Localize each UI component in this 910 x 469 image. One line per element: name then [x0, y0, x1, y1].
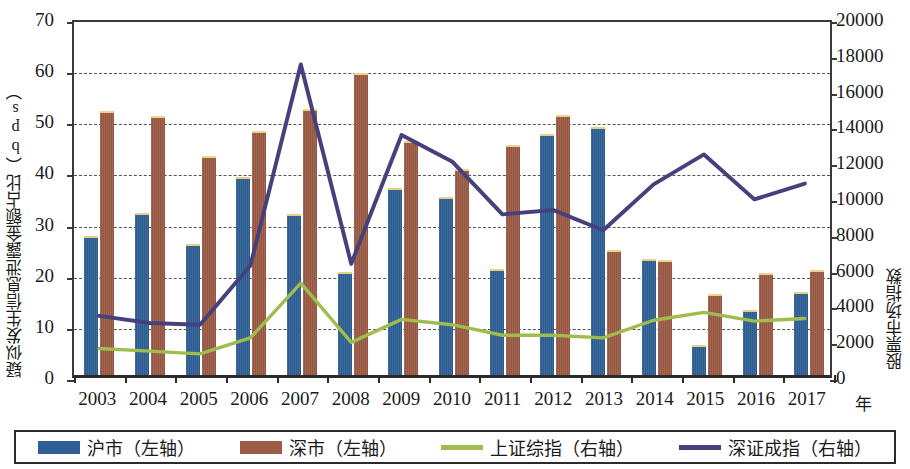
x-tick-mark — [277, 375, 279, 383]
y-axis-left-tick-label: 20 — [8, 266, 54, 285]
legend-label: 深市（左轴） — [289, 434, 397, 460]
y-tick-mark — [67, 175, 74, 177]
legend-swatch-line-icon — [679, 445, 721, 450]
y-axis-left-tick-label: 50 — [8, 112, 54, 131]
x-tick-mark — [733, 375, 735, 383]
y-axis-right-title: 股票市场指数 — [884, 150, 908, 370]
y-axis-right-tick-label: 10000 — [836, 189, 884, 208]
legend-swatch-bar-icon — [240, 441, 282, 454]
legend-swatch-line-icon — [441, 445, 483, 450]
y-tick-mark — [67, 380, 74, 382]
y-axis-right-tick-label: 0 — [836, 368, 846, 387]
y-axis-right-tick-label: 8000 — [836, 225, 874, 244]
x-tick-mark — [74, 375, 76, 383]
y-axis-left-tick-label: 10 — [8, 317, 54, 336]
x-tick-mark — [378, 375, 380, 383]
y-axis-right-tick-label: 16000 — [836, 82, 884, 101]
legend-item[interactable]: 沪市（左轴） — [38, 434, 195, 460]
legend-label: 深证成指（右轴） — [728, 434, 872, 460]
y-tick-mark — [67, 124, 74, 126]
x-tick-mark — [125, 375, 127, 383]
x-tick-mark — [834, 375, 836, 383]
x-tick-mark — [682, 375, 684, 383]
plot-area — [72, 20, 832, 378]
y-tick-mark — [67, 329, 74, 331]
y-axis-right-tick-label: 12000 — [836, 153, 884, 172]
legend-label: 上证综指（右轴） — [490, 434, 634, 460]
y-axis-right-tick-label: 6000 — [836, 261, 874, 280]
x-axis-title: 年 — [855, 390, 872, 415]
y-axis-right-tick-label: 4000 — [836, 296, 874, 315]
legend-swatch-bar-icon — [38, 441, 80, 454]
chart-legend: 沪市（左轴）深市（左轴）上证综指（右轴）深证成指（右轴） — [14, 430, 896, 464]
x-tick-mark — [479, 375, 481, 383]
y-axis-left-tick-label: 40 — [8, 163, 54, 182]
y-axis-right-tick-label: 20000 — [836, 10, 884, 29]
legend-item[interactable]: 深市（左轴） — [240, 434, 397, 460]
y-axis-left-tick-label: 0 — [8, 368, 54, 387]
y-axis-left-tick-label: 70 — [8, 10, 54, 29]
x-tick-mark — [175, 375, 177, 383]
x-tick-mark — [783, 375, 785, 383]
x-tick-mark — [631, 375, 633, 383]
y-tick-mark — [67, 227, 74, 229]
line-series — [99, 64, 805, 324]
legend-item[interactable]: 深证成指（右轴） — [679, 434, 872, 460]
y-axis-right-tick-label: 2000 — [836, 332, 874, 351]
y-axis-right-tick-label: 18000 — [836, 46, 884, 65]
legend-item[interactable]: 上证综指（右轴） — [441, 434, 634, 460]
x-tick-mark — [429, 375, 431, 383]
legend-label: 沪市（左轴） — [87, 434, 195, 460]
y-tick-mark — [67, 22, 74, 24]
x-axis-tick-label: 2017 — [777, 389, 837, 408]
line-series-layer — [74, 22, 830, 375]
y-axis-left-tick-label: 60 — [8, 61, 54, 80]
y-tick-mark — [67, 278, 74, 280]
x-tick-mark — [581, 375, 583, 383]
y-tick-mark — [67, 73, 74, 75]
x-tick-mark — [327, 375, 329, 383]
y-axis-left-tick-label: 30 — [8, 215, 54, 234]
x-tick-mark — [530, 375, 532, 383]
x-tick-mark — [226, 375, 228, 383]
y-axis-right-tick-label: 14000 — [836, 117, 884, 136]
chart-container: 疑似发生信息泄露金额占比（bps） 股票市场指数 年 0102030405060… — [0, 0, 910, 469]
